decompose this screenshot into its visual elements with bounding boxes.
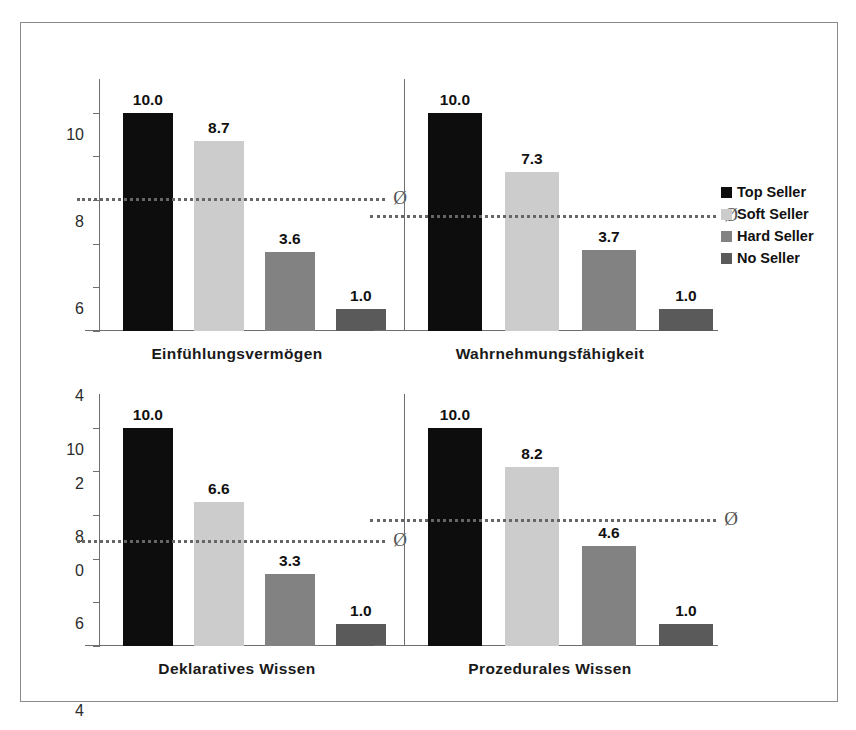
- average-dotted-line: [370, 519, 716, 522]
- bar-value-label: 10.0: [133, 91, 163, 109]
- bar-group: 10.06.63.31.0: [99, 406, 383, 646]
- plot-area: 10.08.24.61.0 Ø: [404, 406, 712, 646]
- average-dotted-line: [77, 540, 385, 543]
- bar-value-label: 3.6: [279, 230, 301, 248]
- bar-value-label: 4.6: [598, 524, 620, 542]
- y-tick-label: 8: [75, 528, 84, 546]
- y-tick: 0: [93, 331, 100, 332]
- legend-item-soft-seller[interactable]: Soft Seller: [721, 205, 841, 223]
- bar-slot-soft-seller: 6.6: [194, 406, 244, 646]
- legend-item-hard-seller[interactable]: Hard Seller: [721, 227, 841, 245]
- bar-slot-hard-seller: 3.6: [265, 91, 315, 331]
- square-swatch: [721, 253, 732, 264]
- bar-group: 10.08.24.61.0: [404, 406, 712, 646]
- legend-item-top-seller[interactable]: Top Seller: [721, 183, 841, 201]
- chart-legend: Top SellerSoft SellerHard SellerNo Selle…: [721, 183, 841, 271]
- bar-slot-soft-seller: 8.2: [505, 406, 559, 646]
- bar-slot-top-seller: 10.0: [123, 91, 173, 331]
- bar-value-label: 1.0: [675, 287, 697, 305]
- bar-value-label: 1.0: [675, 602, 697, 620]
- average-dotted-line: [370, 215, 716, 218]
- chart-panel-einfuehlungsvermoegen: 0246810 10.08.73.61.0 Ø Einfühlungsvermö…: [31, 53, 391, 373]
- square-swatch: [721, 187, 732, 198]
- legend-item-label: Top Seller: [737, 184, 806, 200]
- bar-soft-seller: [505, 467, 559, 646]
- chart-panel-wahrnehmungsfaehigkeit: 10.07.33.71.0 Ø Wahrnehmungsfähigkeit: [366, 53, 716, 373]
- bar-hard-seller: [582, 546, 636, 646]
- bar-group: 10.07.33.71.0: [404, 91, 712, 331]
- plot-area: 10.07.33.71.0 Ø: [404, 91, 712, 331]
- panel-caption: Wahrnehmungsfähigkeit: [366, 345, 716, 363]
- bar-slot-hard-seller: 4.6: [582, 406, 636, 646]
- panel-caption: Prozedurales Wissen: [366, 660, 716, 678]
- bar-value-label: 10.0: [133, 406, 163, 424]
- bar-hard-seller: [265, 252, 315, 331]
- bar-hard-seller: [265, 574, 315, 646]
- panel-caption: Deklaratives Wissen: [31, 660, 391, 678]
- legend-item-label: No Seller: [737, 250, 800, 266]
- chart-panel-prozedurales-wissen: 10.08.24.61.0 Ø Prozedurales Wissen: [366, 368, 716, 688]
- bar-value-label: 3.3: [279, 552, 301, 570]
- y-tick: 0: [93, 646, 100, 647]
- bar-slot-no-seller: 1.0: [659, 406, 713, 646]
- square-swatch: [721, 209, 732, 220]
- bar-value-label: 10.0: [440, 406, 470, 424]
- bar-value-label: 7.3: [521, 150, 543, 168]
- bar-top-seller: [428, 428, 482, 646]
- legend-item-label: Hard Seller: [737, 228, 814, 244]
- bar-soft-seller: [194, 502, 244, 646]
- bar-value-label: 8.7: [208, 119, 230, 137]
- average-symbol: Ø: [724, 508, 738, 530]
- legend-item-label: Soft Seller: [737, 206, 809, 222]
- y-tick-label: 4: [75, 702, 84, 720]
- average-dotted-line: [77, 198, 385, 201]
- legend-item-no-seller[interactable]: No Seller: [721, 249, 841, 267]
- bar-slot-top-seller: 10.0: [428, 406, 482, 646]
- bar-slot-top-seller: 10.0: [123, 406, 173, 646]
- square-swatch: [721, 231, 732, 242]
- bar-value-label: 6.6: [208, 480, 230, 498]
- y-tick-label: 8: [75, 213, 84, 231]
- bar-value-label: 8.2: [521, 445, 543, 463]
- bar-slot-top-seller: 10.0: [428, 91, 482, 331]
- bar-slot-soft-seller: 7.3: [505, 91, 559, 331]
- bar-value-label: 10.0: [440, 91, 470, 109]
- bar-group: 10.08.73.61.0: [99, 91, 383, 331]
- y-tick-label: 10: [66, 126, 84, 144]
- bar-top-seller: [428, 113, 482, 331]
- bar-top-seller: [123, 113, 173, 331]
- bar-slot-no-seller: 1.0: [659, 91, 713, 331]
- chart-figure-frame: 0246810 10.08.73.61.0 Ø Einfühlungsvermö…: [20, 22, 838, 702]
- bar-slot-hard-seller: 3.7: [582, 91, 636, 331]
- y-tick-label: 6: [75, 615, 84, 633]
- plot-area: 0246810 10.08.73.61.0 Ø: [99, 91, 383, 331]
- chart-panel-deklaratives-wissen: 0246810 10.06.63.31.0 Ø Deklaratives Wis…: [31, 368, 391, 688]
- bar-slot-hard-seller: 3.3: [265, 406, 315, 646]
- bar-soft-seller: [505, 172, 559, 331]
- bar-value-label: 3.7: [598, 228, 620, 246]
- bar-no-seller: [659, 624, 713, 646]
- bar-soft-seller: [194, 141, 244, 331]
- bar-top-seller: [123, 428, 173, 646]
- y-tick-label: 6: [75, 300, 84, 318]
- y-tick-label: 10: [66, 441, 84, 459]
- bar-slot-soft-seller: 8.7: [194, 91, 244, 331]
- panel-caption: Einfühlungsvermögen: [31, 345, 391, 363]
- plot-area: 0246810 10.06.63.31.0 Ø: [99, 406, 383, 646]
- bar-hard-seller: [582, 250, 636, 331]
- bar-no-seller: [659, 309, 713, 331]
